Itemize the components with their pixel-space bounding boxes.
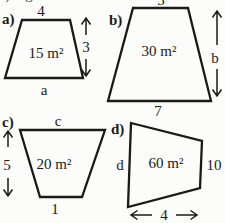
panel-b-area: 30 m² [142, 43, 177, 59]
up-arrow-icon [82, 18, 91, 35]
panel-c-top-length: c [55, 113, 62, 129]
panel-d-area: 60 m² [149, 155, 184, 171]
panel-a: a) 4 15 m² a 3 [2, 3, 91, 98]
panel-c-area: 20 m² [37, 156, 72, 172]
left-arrow-icon [131, 211, 152, 220]
panel-b-label: b) [109, 12, 122, 29]
panel-c-height: 5 [3, 157, 11, 173]
panel-d-right-length: 10 [207, 157, 222, 173]
up-arrow-icon [4, 131, 13, 147]
panel-a-bottom-length: a [41, 82, 48, 98]
right-arrow-icon [176, 211, 197, 220]
panel-c: c) c 20 m² 1 5 [2, 113, 105, 217]
down-arrow-icon [4, 178, 13, 196]
cropped-glyph-g: g [25, 0, 33, 2]
panel-b-bottom-length: 7 [154, 103, 162, 119]
cropped-glyph-left: ) [6, 0, 11, 3]
panel-d: d) d 60 m² 10 4 [111, 121, 222, 223]
panel-c-label: c) [2, 114, 14, 131]
down-arrow-icon [213, 69, 222, 96]
panel-b-height: b [211, 50, 219, 66]
trapezoid-diagram: ) g a) 4 15 m² a 3 b) 5 30 m² 7 b c) [0, 0, 225, 223]
worksheet-canvas: ) g a) 4 15 m² a 3 b) 5 30 m² 7 b c) [0, 0, 225, 223]
panel-a-label: a) [2, 11, 15, 28]
panel-d-left-length: d [116, 157, 124, 173]
panel-b-top-length: 5 [157, 0, 165, 8]
panel-c-bottom-length: 1 [51, 201, 59, 217]
panel-a-area: 15 m² [29, 45, 64, 61]
panel-a-height: 3 [82, 39, 90, 55]
panel-d-label: d) [111, 121, 124, 138]
panel-b: b) 5 30 m² 7 b [108, 0, 222, 119]
panel-d-width: 4 [160, 207, 168, 223]
up-arrow-icon [213, 11, 222, 45]
panel-a-top-length: 4 [37, 3, 45, 19]
